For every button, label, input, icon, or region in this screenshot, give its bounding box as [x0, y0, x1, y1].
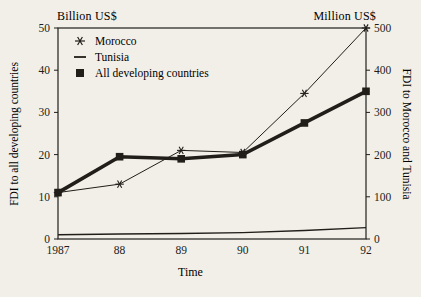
chart-legend: Morocco Tunisia All developing countries [72, 34, 209, 79]
legend-label: Morocco [95, 35, 137, 47]
x-axis-tick-label: 92 [360, 244, 372, 256]
right-axis-label: FDI to Morocco and Tunisia [401, 69, 413, 200]
marker-square-all-developing-countries [362, 88, 370, 96]
x-axis-tick-label: 91 [299, 244, 311, 256]
left-axis-label: FDI to all developing countries [8, 62, 20, 206]
legend-item-tunisia: Tunisia [72, 50, 209, 63]
marker-square-all-developing-countries [54, 189, 62, 197]
left-axis-tick-label: 50 [39, 22, 51, 34]
right-axis-tick-label: 300 [374, 106, 392, 118]
tunisia-line-icon [72, 52, 88, 62]
left-axis-tick-label: 10 [39, 191, 51, 203]
marker-square-all-developing-countries [116, 153, 124, 161]
series-line-tunisia [58, 228, 366, 235]
right-axis-title: Million US$ [313, 9, 376, 24]
chart-figure: 0102030405001002003004005001987888990919… [0, 0, 421, 297]
marker-star-morocco [115, 181, 123, 188]
right-axis-tick-label: 0 [374, 233, 380, 245]
marker-square-all-developing-countries [301, 119, 309, 127]
x-axis-tick-label: 90 [237, 244, 249, 256]
left-axis-tick-label: 20 [39, 149, 51, 161]
marker-square-all-developing-countries [177, 155, 185, 163]
legend-item-all-developing: All developing countries [72, 66, 209, 79]
left-axis-tick-label: 30 [39, 106, 51, 118]
x-axis-label: Time [178, 265, 203, 280]
x-axis-tick-label: 88 [114, 244, 126, 256]
marker-star-morocco [177, 147, 185, 154]
series-line-all-developing-countries [58, 91, 366, 192]
morocco-star-marker-icon [72, 36, 88, 46]
legend-label: Tunisia [95, 51, 129, 63]
left-axis-title: Billion US$ [57, 9, 117, 24]
right-axis-tick-label: 200 [374, 149, 392, 161]
right-axis-tick-label: 400 [374, 64, 392, 76]
right-axis-tick-label: 100 [374, 191, 392, 203]
marker-square-all-developing-countries [239, 151, 247, 159]
plot-area: 0102030405001002003004005001987888990919… [0, 0, 421, 297]
all-developing-square-marker-icon [72, 68, 88, 78]
x-axis-tick-label: 89 [175, 244, 187, 256]
right-axis-tick-label: 500 [374, 22, 392, 34]
legend-item-morocco: Morocco [72, 34, 209, 47]
left-axis-tick-label: 40 [39, 64, 51, 76]
legend-label: All developing countries [95, 67, 209, 79]
x-axis-tick-label: 1987 [47, 244, 70, 256]
